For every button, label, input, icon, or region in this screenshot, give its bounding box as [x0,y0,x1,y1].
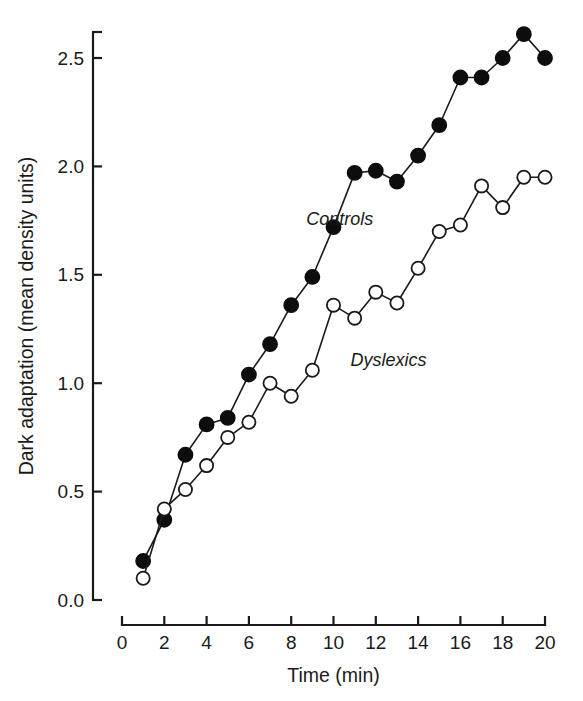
series-annotation-controls: Controls [306,209,373,229]
y-axis-tick-label: 1.0 [58,373,84,394]
data-point [158,502,171,515]
data-point [390,296,403,309]
data-point [517,171,530,184]
dark-adaptation-line-chart: 0.00.51.01.52.02.502468101214161820 Time… [0,0,583,701]
data-point [263,377,276,390]
x-axis-tick-label: 18 [492,632,513,653]
data-point [306,364,319,377]
axes-group: 0.00.51.01.52.02.502468101214161820 [58,32,556,653]
data-point [432,118,446,132]
data-point [347,166,361,180]
data-point [221,411,235,425]
data-point [242,416,255,429]
series-annotation-dyslexics: Dyslexics [350,350,426,370]
data-point [369,164,383,178]
data-point [369,286,382,299]
data-point [305,270,319,284]
y-axis-title: Dark adaptation (mean density units) [15,157,37,476]
data-point [221,431,234,444]
y-axis-tick-label: 0.0 [58,590,84,611]
x-axis-tick-label: 16 [450,632,471,653]
data-point [263,337,277,351]
data-point [411,148,425,162]
data-point [433,225,446,238]
y-axis-tick-label: 2.5 [58,48,84,69]
x-axis-tick-label: 8 [286,632,297,653]
data-point [284,298,298,312]
y-axis-tick-label: 1.5 [58,264,84,285]
x-axis-tick-label: 12 [365,632,386,653]
series-line-controls [143,34,545,561]
x-axis-tick-label: 4 [201,632,212,653]
data-point [179,483,192,496]
x-axis-tick-label: 2 [159,632,170,653]
data-point [538,171,551,184]
data-point [517,27,531,41]
x-axis-tick-label: 20 [534,632,555,653]
data-point [496,201,509,214]
figure-container: 0.00.51.01.52.02.502468101214161820 Time… [0,0,583,701]
x-axis-tick-label: 14 [408,632,430,653]
x-axis-title: Time (min) [287,664,379,686]
x-axis-tick-label: 10 [323,632,344,653]
data-point [496,51,510,65]
series-controls [136,27,552,568]
data-point [199,417,213,431]
data-point [454,218,467,231]
x-axis-tick-label: 0 [117,632,128,653]
y-axis-tick-label: 0.5 [58,481,84,502]
data-point [412,262,425,275]
y-axis-tick-label: 2.0 [58,156,84,177]
data-point [453,70,467,84]
data-point [137,572,150,585]
data-point [390,174,404,188]
data-point [242,367,256,381]
series-dyslexics [137,171,552,585]
data-point [327,299,340,312]
data-point [285,390,298,403]
data-point [178,448,192,462]
x-axis-tick-label: 6 [244,632,255,653]
data-point [200,459,213,472]
data-point [348,312,361,325]
data-point [538,51,552,65]
data-series-group [136,27,552,585]
data-point [475,179,488,192]
series-line-dyslexics [143,177,545,578]
data-point [474,70,488,84]
